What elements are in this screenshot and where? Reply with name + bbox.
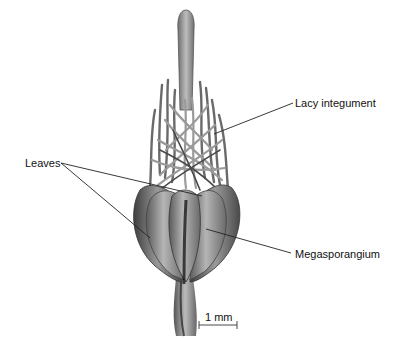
nucellus-beak (178, 10, 194, 110)
label-lacy-integument: Lacy integument (295, 97, 376, 109)
label-megasporangium: Megasporangium (295, 248, 380, 260)
label-leaves: Leaves (25, 157, 60, 169)
ovule-illustration (0, 0, 405, 341)
diagram-canvas: Lacy integument Leaves Megasporangium 1 … (0, 0, 405, 341)
leader-line-lacy-integument (214, 103, 293, 134)
stalk (174, 278, 197, 336)
scale-bar-label: 1 mm (205, 311, 233, 323)
